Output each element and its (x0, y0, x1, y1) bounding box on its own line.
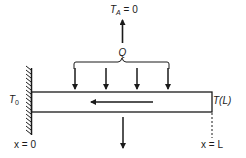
wall-hatching-icon (26, 66, 31, 134)
distributed-load-arrows (75, 68, 168, 89)
tip-temp-label: T(L) (213, 95, 231, 106)
length-position-label: x = L (201, 139, 223, 150)
ambient-temp-label: TA = 0 (110, 4, 138, 16)
load-brace-icon (74, 58, 169, 69)
heat-load-label: Q (119, 47, 127, 58)
base-temp-label: T0 (9, 94, 19, 106)
fixed-wall (26, 66, 32, 135)
fin-heat-transfer-diagram: TA = 0 Q (0, 0, 246, 158)
origin-position-label: x = 0 (14, 139, 36, 150)
